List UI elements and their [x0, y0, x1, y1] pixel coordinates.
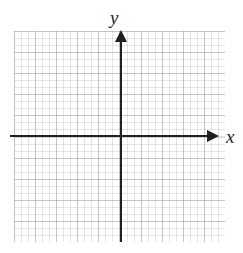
y-axis-label: y	[110, 8, 118, 27]
coordinate-plane-figure: y x	[0, 0, 243, 253]
x-axis-line	[10, 135, 216, 137]
x-axis-label: x	[226, 127, 234, 146]
y-axis-line	[120, 36, 122, 242]
x-axis-arrowhead-icon	[207, 130, 219, 142]
y-axis-arrowhead-icon	[115, 30, 127, 42]
